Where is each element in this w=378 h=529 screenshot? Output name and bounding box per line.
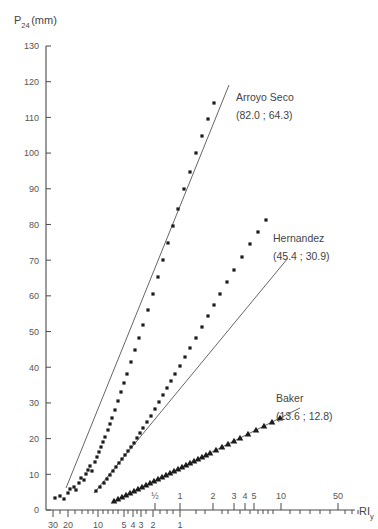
data-point-square [200, 134, 203, 137]
data-point-triangle [231, 438, 238, 444]
x-tick-label-upper: ½ [151, 491, 159, 501]
data-point-square [161, 393, 164, 396]
series-name-label: Arroyo Seco [236, 91, 294, 103]
x-tick-label-lower: 20 [63, 520, 73, 529]
data-point-square [206, 314, 209, 317]
y-tick-label: 0 [34, 505, 39, 515]
data-point-square [182, 187, 185, 190]
y-tick-label: 110 [25, 113, 39, 123]
data-point-square [129, 445, 132, 448]
data-point-square [176, 207, 179, 210]
data-point-square [74, 488, 77, 491]
data-point-square [169, 379, 172, 382]
data-point-square [129, 360, 132, 363]
data-point-square [99, 445, 102, 448]
data-point-triangle [237, 435, 244, 441]
data-point-square [188, 346, 191, 349]
data-point-square [188, 170, 191, 173]
data-point-square [153, 407, 156, 410]
data-point-square [95, 455, 98, 458]
x-tick-label-upper: 10 [276, 491, 286, 501]
x-tick-label-upper: 5 [251, 491, 256, 501]
data-point-square [102, 481, 105, 484]
data-point-square [123, 453, 126, 456]
data-point-square [173, 372, 176, 375]
chart-container: 0102030405060708090100110120130P24(mm)30… [0, 0, 378, 529]
y-tick-label: 60 [29, 291, 39, 301]
data-point-square [68, 487, 71, 490]
data-point-square [135, 436, 138, 439]
data-point-square [101, 440, 104, 443]
x-tick-label-lower: 5 [121, 520, 126, 529]
data-point-square [98, 485, 101, 488]
data-point-square [90, 469, 93, 472]
data-point-square [212, 101, 215, 104]
data-point-square [58, 494, 61, 497]
data-point-triangle [261, 423, 268, 429]
data-point-square [114, 465, 117, 468]
data-point-square [133, 348, 136, 351]
data-point-triangle [207, 450, 214, 456]
y-tick-label: 100 [24, 148, 39, 158]
data-point-square [97, 450, 100, 453]
data-point-square [183, 355, 186, 358]
data-point-square [66, 491, 69, 494]
y-tick-label: 90 [29, 184, 39, 194]
data-point-square [212, 303, 215, 306]
y-tick-label: 50 [29, 327, 39, 337]
data-point-triangle [253, 427, 260, 433]
x-tick-label-upper: 2 [210, 491, 215, 501]
data-point-triangle [219, 444, 226, 450]
data-point-square [151, 292, 154, 295]
scatter-chart: 0102030405060708090100110120130P24(mm)30… [0, 0, 378, 529]
data-point-square [157, 400, 160, 403]
y-tick-label: 10 [29, 470, 39, 480]
data-point-square [94, 489, 97, 492]
data-point-square [120, 457, 123, 460]
data-point-square [256, 230, 259, 233]
y-axis-title: P24(mm) [14, 14, 57, 30]
data-point-square [248, 242, 251, 245]
data-point-square [126, 449, 129, 452]
data-point-square [145, 420, 148, 423]
data-point-square [106, 428, 109, 431]
data-point-square [149, 414, 152, 417]
y-tick-label: 20 [29, 434, 39, 444]
y-tick-label: 120 [24, 77, 39, 87]
y-tick-label: 130 [24, 41, 39, 51]
data-point-square [108, 473, 111, 476]
data-point-square [132, 441, 135, 444]
data-point-square [122, 381, 125, 384]
data-point-square [86, 468, 89, 471]
y-tick-label: 80 [29, 220, 39, 230]
y-axis-title-text: P24(mm) [14, 14, 57, 30]
x-tick-label-upper: 4 [242, 491, 247, 501]
x-axis: 30201054321½123451050 [46, 491, 358, 529]
data-point-square [141, 426, 144, 429]
series-params-label: (13.6 ; 12.8) [276, 410, 333, 422]
x-axis-title-text: RIy [359, 505, 374, 521]
x-tick-label-upper: 3 [231, 491, 236, 501]
data-point-square [82, 478, 85, 481]
data-point-square [77, 481, 80, 484]
data-point-square [178, 364, 181, 367]
data-point-square [117, 461, 120, 464]
data-point-square [137, 336, 140, 339]
data-point-triangle [245, 431, 252, 437]
data-point-square [194, 336, 197, 339]
series-params-label: (45.4 ; 30.9) [273, 250, 330, 262]
data-point-square [232, 268, 235, 271]
data-point-square [138, 431, 141, 434]
data-point-square [171, 224, 174, 227]
data-point-square [240, 255, 243, 258]
data-point-square [166, 241, 169, 244]
data-point-square [108, 422, 111, 425]
data-point-square [93, 460, 96, 463]
y-axis: 0102030405060708090100110120130 [24, 41, 51, 515]
data-point-square [103, 435, 106, 438]
data-point-square [161, 258, 164, 261]
x-axis-title: RIy [359, 505, 374, 521]
x-tick-label-lower: 1 [177, 520, 182, 529]
data-point-square [146, 308, 149, 311]
data-point-square [194, 151, 197, 154]
